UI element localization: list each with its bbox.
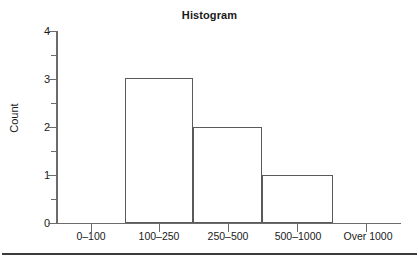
y-axis-spine [56,31,58,224]
y-major-tick-3 [48,79,56,80]
x-tick-label-2: 250–500 [198,231,258,242]
y-major-tick-1 [48,175,56,176]
footer-divider [2,253,417,255]
y-major-tick-4 [48,31,56,32]
histogram-screenshot: Histogram Count 4 3 2 1 0 [0,0,419,266]
x-tick-label-4: Over 1000 [333,231,403,242]
bar-250-500 [193,127,262,223]
bar-100-250 [125,78,193,223]
x-tick-label-0: 0–100 [61,231,121,242]
bar-500-1000 [262,175,333,223]
y-minor-tick-0-5 [51,199,56,200]
x-tick-label-3: 500–1000 [264,231,332,242]
y-minor-tick-2-5 [51,103,56,104]
plot-area: Count 4 3 2 1 0 0–100 100–250 [0,0,419,266]
y-minor-tick-3-5 [51,55,56,56]
y-major-tick-2 [48,127,56,128]
x-tick-label-1: 100–250 [129,231,189,242]
y-minor-tick-1-5 [51,151,56,152]
y-axis-title: Count [8,88,20,148]
y-major-tick-0 [48,223,56,224]
